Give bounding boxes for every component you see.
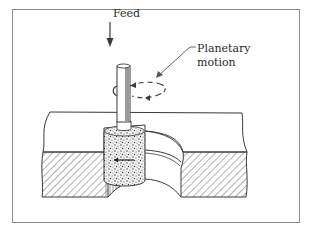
motion-arrowhead-icon: [145, 95, 150, 101]
feed-arrow-icon: [107, 22, 114, 47]
spindle: [117, 64, 130, 122]
planetary-label: Planetary: [197, 42, 251, 55]
planetary-grinding-diagram: Feed Planetary motion: [0, 0, 310, 232]
motion-label: motion: [197, 56, 236, 69]
left-section-hatch: [42, 152, 108, 197]
grinding-wheel: [104, 121, 145, 186]
feed-label: Feed: [113, 7, 140, 20]
right-section-hatch: [181, 152, 247, 197]
planetary-leader-line: [156, 47, 196, 78]
